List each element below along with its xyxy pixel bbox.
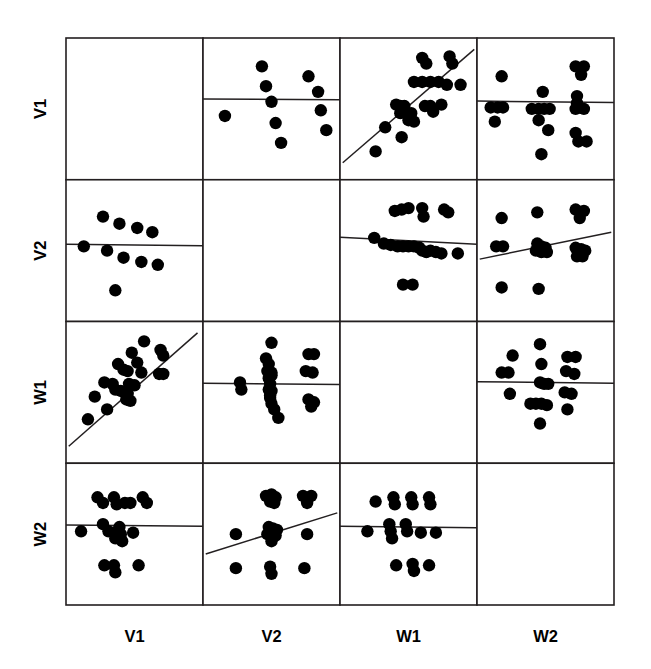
data-point xyxy=(101,403,113,415)
data-point xyxy=(435,98,447,110)
data-point xyxy=(543,103,555,115)
data-point xyxy=(542,124,554,136)
data-point xyxy=(569,351,581,363)
panel-w2-w2 xyxy=(477,463,614,605)
panel-frame xyxy=(66,38,203,180)
data-point xyxy=(386,532,398,544)
data-point xyxy=(157,349,169,361)
data-point xyxy=(408,115,420,127)
data-point xyxy=(506,349,518,361)
data-point xyxy=(157,368,169,380)
panel-frame xyxy=(203,180,340,322)
data-point xyxy=(497,240,509,252)
data-point xyxy=(575,69,587,81)
data-point xyxy=(389,498,401,510)
data-point xyxy=(135,366,147,378)
panel-frame xyxy=(477,463,614,605)
data-point xyxy=(219,110,231,122)
data-point xyxy=(495,70,507,82)
data-point xyxy=(97,497,109,509)
data-point xyxy=(89,390,101,402)
column-axis-label-v2: V2 xyxy=(261,627,281,645)
panel-frame xyxy=(340,322,477,464)
row-axis-label-v1: V1 xyxy=(31,99,49,119)
data-point xyxy=(531,206,543,218)
data-point xyxy=(446,57,458,69)
data-point xyxy=(568,368,580,380)
panel-v1-w2 xyxy=(477,38,614,180)
data-point xyxy=(230,528,242,540)
data-point xyxy=(430,527,442,539)
data-point xyxy=(423,559,435,571)
data-point xyxy=(306,366,318,378)
panel-v2-w1 xyxy=(340,180,477,322)
data-point xyxy=(417,210,429,222)
data-point xyxy=(146,226,158,238)
column-axis-label-w2: W2 xyxy=(533,627,558,645)
data-point xyxy=(264,389,276,401)
panel-w1-v2 xyxy=(203,322,340,464)
data-point xyxy=(124,497,136,509)
data-point xyxy=(131,222,143,234)
column-axis-label-w1: W1 xyxy=(396,627,421,645)
data-point xyxy=(138,335,150,347)
data-point xyxy=(109,566,121,578)
data-point xyxy=(82,413,94,425)
data-point xyxy=(113,217,125,229)
data-point xyxy=(369,145,381,157)
panels-layer xyxy=(66,38,614,605)
data-point xyxy=(402,202,414,214)
data-point xyxy=(132,559,144,571)
data-point xyxy=(116,535,128,547)
data-point xyxy=(141,497,153,509)
data-point xyxy=(424,498,436,510)
panel-w2-w1 xyxy=(340,463,477,605)
panel-v2-v1 xyxy=(66,180,203,322)
data-point xyxy=(578,103,590,115)
data-point xyxy=(574,212,586,224)
data-point xyxy=(308,348,320,360)
data-point xyxy=(542,378,554,390)
panel-v1-v2 xyxy=(203,38,340,180)
data-point xyxy=(537,86,549,98)
data-point xyxy=(124,395,136,407)
panel-w2-v2 xyxy=(203,463,340,605)
data-point xyxy=(406,278,418,290)
data-point xyxy=(534,338,546,350)
data-point xyxy=(127,527,139,539)
data-point xyxy=(435,247,447,259)
data-point xyxy=(454,79,466,91)
panel-w2-v1 xyxy=(66,463,203,605)
data-point xyxy=(265,96,277,108)
data-point xyxy=(235,383,247,395)
data-point xyxy=(541,246,553,258)
data-point xyxy=(452,247,464,259)
data-point xyxy=(312,86,324,98)
data-point xyxy=(535,148,547,160)
data-point xyxy=(495,212,507,224)
data-point xyxy=(265,337,277,349)
data-point xyxy=(269,117,281,129)
data-point xyxy=(256,60,268,72)
scatterplot-matrix-figure: V1V2W1W2 V1V2W1W2 xyxy=(0,0,651,669)
data-point xyxy=(534,417,546,429)
data-point xyxy=(561,403,573,415)
row-axis-label-w1: W1 xyxy=(31,380,49,405)
data-point xyxy=(532,114,544,126)
column-axis-label-v1: V1 xyxy=(124,627,144,645)
data-point xyxy=(535,358,547,370)
row-axis-label-v2: V2 xyxy=(31,241,49,261)
panel-w1-v1 xyxy=(66,322,203,464)
data-point xyxy=(265,535,277,547)
panel-w1-w1 xyxy=(340,322,477,464)
data-point xyxy=(121,365,133,377)
data-point xyxy=(101,244,113,256)
data-point xyxy=(128,379,140,391)
data-point xyxy=(301,497,313,509)
data-point xyxy=(489,115,501,127)
data-point xyxy=(135,256,147,268)
data-point xyxy=(361,525,373,537)
data-point xyxy=(408,565,420,577)
panel-w1-w2 xyxy=(477,322,614,464)
data-point xyxy=(275,137,287,149)
